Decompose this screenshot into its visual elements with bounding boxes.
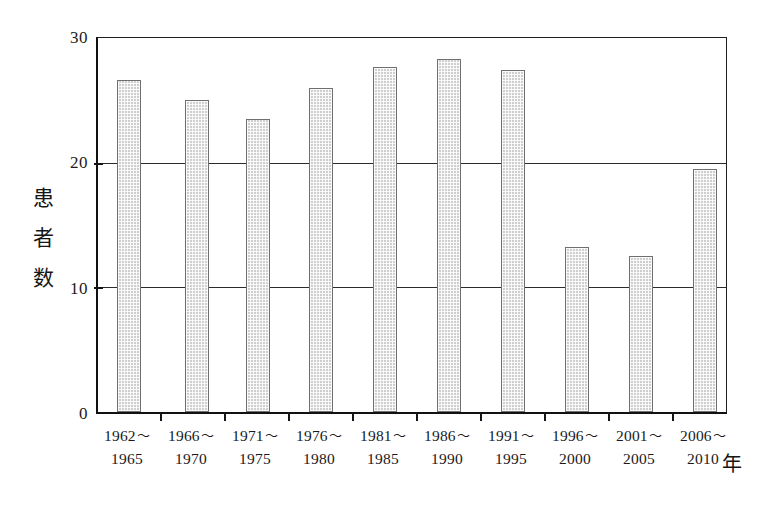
x-axis-tick-8 bbox=[608, 412, 610, 421]
x-label-year-end: 1990 bbox=[410, 447, 484, 470]
y-tick-label-20: 20 bbox=[48, 154, 88, 171]
x-tick-label-1981-1985: 1981〜 1985 bbox=[346, 424, 420, 470]
x-tick-label-1962-1965: 1962〜 1965 bbox=[90, 424, 164, 470]
tilde-glyph: 〜 bbox=[392, 428, 406, 443]
bar-1991-1995 bbox=[501, 70, 525, 412]
chart-screenshot: 30 20 10 0 患 者 数 bbox=[0, 0, 763, 507]
x-axis-tick-labels: 1962〜 1965 1966〜 1970 1971〜 1975 1976〜 1… bbox=[96, 424, 727, 484]
x-tick-label-2001-2005: 2001〜 2005 bbox=[602, 424, 676, 470]
bar-1996-2000 bbox=[565, 247, 589, 412]
bar-1971-1975 bbox=[246, 119, 270, 412]
bar-1976-1980 bbox=[309, 88, 333, 412]
x-axis-tick-7 bbox=[544, 412, 546, 421]
x-label-year-end: 1985 bbox=[346, 447, 420, 470]
tilde-glyph: 〜 bbox=[200, 428, 214, 443]
bar-1966-1970 bbox=[185, 100, 209, 412]
y-axis-title-char-2: 者 bbox=[28, 218, 58, 258]
x-label-year-start: 2001 bbox=[616, 427, 648, 444]
x-tick-label-1986-1990: 1986〜 1990 bbox=[410, 424, 484, 470]
x-label-year-end: 1965 bbox=[90, 447, 164, 470]
x-tick-label-1971-1975: 1971〜 1975 bbox=[218, 424, 292, 470]
x-label-year-end: 1995 bbox=[474, 447, 548, 470]
x-tick-label-1966-1970: 1966〜 1970 bbox=[154, 424, 228, 470]
y-tick-label-0: 0 bbox=[48, 405, 88, 422]
bar-1981-1985 bbox=[373, 67, 397, 412]
y-axis-title-char-3: 数 bbox=[28, 258, 58, 298]
x-label-year-end: 2005 bbox=[602, 447, 676, 470]
bar-2001-2005 bbox=[629, 256, 653, 412]
y-axis-title: 患 者 数 bbox=[28, 178, 58, 298]
x-axis-title: 年 bbox=[722, 452, 742, 476]
x-label-year-start: 1991 bbox=[488, 427, 520, 444]
x-axis-tick-2 bbox=[224, 412, 226, 421]
x-label-year-end: 2000 bbox=[538, 447, 612, 470]
y-axis-title-char-1: 患 bbox=[28, 178, 58, 218]
tilde-glyph: 〜 bbox=[328, 428, 342, 443]
x-label-year-end: 1975 bbox=[218, 447, 292, 470]
y-tick-label-30: 30 bbox=[48, 29, 88, 46]
x-axis-tick-4 bbox=[352, 412, 354, 421]
tilde-glyph: 〜 bbox=[520, 428, 534, 443]
x-label-year-start: 1962 bbox=[104, 427, 136, 444]
x-tick-label-1976-1980: 1976〜 1980 bbox=[282, 424, 356, 470]
bar-1986-1990 bbox=[437, 59, 461, 412]
tilde-glyph: 〜 bbox=[648, 428, 662, 443]
x-label-year-start: 1986 bbox=[424, 427, 456, 444]
x-axis-tick-6 bbox=[480, 412, 482, 421]
x-axis-tick-3 bbox=[288, 412, 290, 421]
x-axis-tick-5 bbox=[416, 412, 418, 421]
tilde-glyph: 〜 bbox=[712, 428, 726, 443]
plot-area bbox=[96, 37, 727, 414]
x-axis-tick-1 bbox=[160, 412, 162, 421]
bar-1962-1965 bbox=[117, 80, 141, 412]
x-label-year-end: 1970 bbox=[154, 447, 228, 470]
bar-2006-2010 bbox=[693, 169, 717, 412]
x-label-year-start: 1971 bbox=[232, 427, 264, 444]
x-axis-tick-9 bbox=[672, 412, 674, 421]
tilde-glyph: 〜 bbox=[456, 428, 470, 443]
x-label-year-end: 1980 bbox=[282, 447, 356, 470]
x-label-year-start: 1976 bbox=[296, 427, 328, 444]
x-tick-label-1991-1995: 1991〜 1995 bbox=[474, 424, 548, 470]
tilde-glyph: 〜 bbox=[136, 428, 150, 443]
x-label-year-start: 1981 bbox=[360, 427, 392, 444]
tilde-glyph: 〜 bbox=[584, 428, 598, 443]
x-label-year-start: 1966 bbox=[168, 427, 200, 444]
x-label-year-start: 2006 bbox=[680, 427, 712, 444]
tilde-glyph: 〜 bbox=[264, 428, 278, 443]
bars-layer bbox=[98, 38, 726, 412]
x-label-year-start: 1996 bbox=[552, 427, 584, 444]
x-tick-label-1996-2000: 1996〜 2000 bbox=[538, 424, 612, 470]
